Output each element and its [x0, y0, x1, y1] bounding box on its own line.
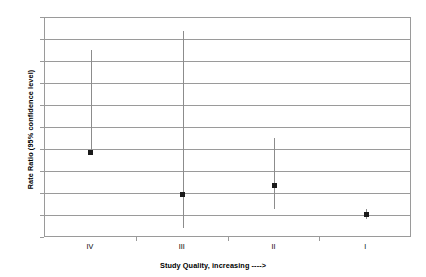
y-tick-mark-0	[40, 237, 44, 238]
datapoint-iii	[180, 192, 185, 197]
gridline-8	[45, 61, 410, 62]
plot-area	[44, 17, 411, 237]
x-axis-title: Study Quality, increasing ---->	[0, 261, 426, 270]
datapoint-i	[364, 212, 369, 217]
y-axis-title: Rate Ratio (95% confidence level)	[26, 30, 35, 230]
x-tick-mark-3	[319, 237, 320, 241]
errorbar-iv	[91, 50, 92, 152]
gridline-7	[45, 83, 410, 84]
x-tick-mark-2	[228, 237, 229, 241]
x-tick-label-i: I	[335, 243, 395, 251]
gridline-3	[45, 171, 410, 172]
x-tick-label-ii: II	[243, 243, 303, 251]
x-tick-label-iv: IV	[60, 243, 120, 251]
x-tick-mark-1	[136, 237, 137, 241]
rate-ratio-forest-chart: Rate Ratio (95% confidence level) Study …	[0, 0, 426, 277]
gridline-1	[45, 215, 410, 216]
gridline-2	[45, 193, 410, 194]
datapoint-ii	[272, 183, 277, 188]
gridline-9	[45, 39, 410, 40]
errorbar-ii	[274, 138, 275, 210]
datapoint-iv	[88, 150, 93, 155]
gridline-4	[45, 149, 410, 150]
gridline-5	[45, 127, 410, 128]
gridline-6	[45, 105, 410, 106]
x-tick-label-iii: III	[152, 243, 212, 251]
errorbar-iii	[183, 31, 184, 228]
